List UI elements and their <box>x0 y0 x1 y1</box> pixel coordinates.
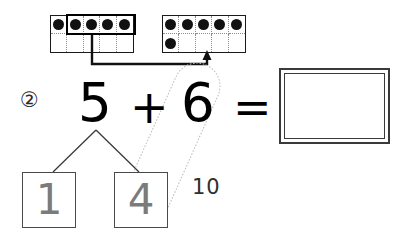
tf-cell-2-2 <box>179 34 195 52</box>
tf-cell-1-4 <box>212 16 228 34</box>
dot-icon <box>86 19 97 30</box>
tf-cell-2-1 <box>51 34 67 52</box>
dot-icon-empty <box>102 38 113 49</box>
dot-icon <box>231 19 242 30</box>
tf-cell-2-3 <box>84 34 100 52</box>
tf-cell-1-3 <box>196 16 212 34</box>
dot-icon <box>182 19 193 30</box>
answer-value[interactable] <box>284 73 385 139</box>
tf-cell-1-5 <box>117 16 133 34</box>
tf-cell-2-4 <box>100 34 116 52</box>
dot-icon <box>70 19 81 30</box>
tf-cell-2-4 <box>212 34 228 52</box>
math-worksheet: ② 5 + 6 = 1 4 10 <box>0 0 401 249</box>
dot-icon <box>214 19 225 30</box>
dot-icon <box>119 19 130 30</box>
tf-cell-2-1 <box>163 34 179 52</box>
addend-two: 6 <box>181 76 215 129</box>
tf-cell-1-5 <box>229 16 245 34</box>
tf-cell-1-2 <box>179 16 195 34</box>
tf-cell-2-5 <box>229 34 245 52</box>
dot-icon-empty <box>214 38 225 49</box>
dot-icon <box>198 19 209 30</box>
left-ten-frame[interactable] <box>50 15 134 53</box>
tf-cell-1-2 <box>67 16 83 34</box>
tf-cell-1-3 <box>84 16 100 34</box>
dot-icon-empty <box>119 38 130 49</box>
dot-icon <box>102 19 113 30</box>
dot-icon-empty <box>70 38 81 49</box>
right-ten-frame[interactable] <box>162 15 246 53</box>
dot-icon-empty <box>182 38 193 49</box>
dot-icon-empty <box>53 38 64 49</box>
plus-operator: + <box>130 84 169 130</box>
dot-icon-empty <box>231 38 242 49</box>
dot-icon <box>53 19 64 30</box>
addend-one: 5 <box>78 76 112 129</box>
bond-part-right-value: 4 <box>128 179 155 221</box>
dot-icon <box>165 19 176 30</box>
tf-cell-1-4 <box>100 16 116 34</box>
tf-cell-2-2 <box>67 34 83 52</box>
tf-cell-1-1 <box>51 16 67 34</box>
dot-icon-empty <box>198 38 209 49</box>
bond-part-left-box[interactable]: 1 <box>22 172 76 228</box>
number-bond-branches <box>53 130 139 172</box>
ten-annotation-label: 10 <box>192 175 221 199</box>
bond-part-left-value: 1 <box>36 179 63 221</box>
answer-input-box[interactable] <box>279 68 390 144</box>
dot-icon-empty <box>86 38 97 49</box>
dot-icon <box>165 38 176 49</box>
bond-part-right-box[interactable]: 4 <box>114 172 168 228</box>
problem-number: ② <box>20 90 39 111</box>
tf-cell-1-1 <box>163 16 179 34</box>
tf-cell-2-5 <box>117 34 133 52</box>
tf-cell-2-3 <box>196 34 212 52</box>
equals-operator: = <box>233 84 272 130</box>
